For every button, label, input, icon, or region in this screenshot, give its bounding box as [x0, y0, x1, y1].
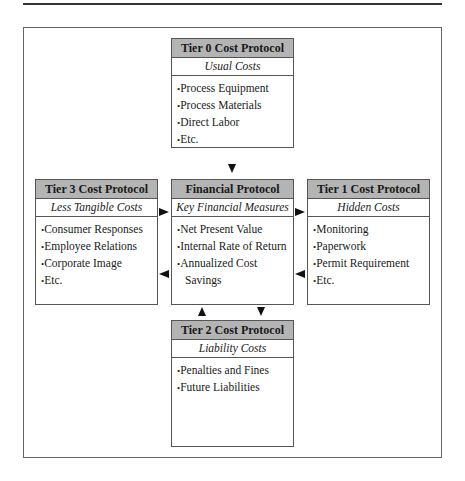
financial-list: Net Present Value Internal Rate of Retur… — [172, 217, 293, 288]
list-item: Annualized Cost Savings — [177, 255, 265, 288]
tier0-list: Process Equipment Process Materials Dire… — [172, 76, 293, 148]
list-item: Penalties and Fines — [177, 362, 293, 379]
tier2-box: Tier 2 Cost Protocol Liability Costs Pen… — [171, 320, 294, 447]
list-item: Etc. — [41, 272, 157, 289]
financial-box: Financial Protocol Key Financial Measure… — [171, 179, 294, 305]
arrow-left-icon — [295, 270, 305, 278]
list-item: Paperwork — [313, 238, 429, 255]
list-item: Net Present Value — [177, 221, 293, 238]
tier2-title: Tier 2 Cost Protocol — [172, 321, 293, 340]
list-item: Monitoring — [313, 221, 429, 238]
arrow-right-icon — [295, 208, 305, 216]
top-rule — [23, 3, 442, 5]
tier0-subtitle: Usual Costs — [172, 58, 293, 76]
arrow-right-icon — [159, 208, 169, 216]
tier1-subtitle: Hidden Costs — [308, 199, 429, 217]
list-item: Permit Requirement — [313, 255, 429, 272]
tier0-box: Tier 0 Cost Protocol Usual Costs Process… — [171, 38, 294, 148]
list-item: Process Materials — [177, 97, 293, 114]
list-item: Corporate Image — [41, 255, 157, 272]
tier1-list: Monitoring Paperwork Permit Requirement … — [308, 217, 429, 289]
list-item: Etc. — [313, 272, 429, 289]
tier1-title: Tier 1 Cost Protocol — [308, 180, 429, 199]
financial-title: Financial Protocol — [172, 180, 293, 199]
tier3-box: Tier 3 Cost Protocol Less Tangible Costs… — [35, 179, 158, 305]
tier1-box: Tier 1 Cost Protocol Hidden Costs Monito… — [307, 179, 430, 305]
list-item: Employee Relations — [41, 238, 157, 255]
arrow-up-icon — [198, 307, 206, 316]
list-item: Process Equipment — [177, 80, 293, 97]
list-item: Consumer Responses — [41, 221, 157, 238]
financial-subtitle: Key Financial Measures — [172, 199, 293, 217]
list-item: Etc. — [177, 131, 293, 148]
tier3-subtitle: Less Tangible Costs — [36, 199, 157, 217]
list-item: Future Liabilities — [177, 379, 293, 396]
list-item: Internal Rate of Return — [177, 238, 293, 255]
tier3-title: Tier 3 Cost Protocol — [36, 180, 157, 199]
arrow-down-icon — [257, 307, 265, 316]
arrow-down-icon — [228, 164, 236, 173]
list-item: Direct Labor — [177, 114, 293, 131]
tier0-title: Tier 0 Cost Protocol — [172, 39, 293, 58]
arrow-left-icon — [159, 270, 169, 278]
tier2-list: Penalties and Fines Future Liabilities — [172, 358, 293, 396]
tier2-subtitle: Liability Costs — [172, 340, 293, 358]
tier3-list: Consumer Responses Employee Relations Co… — [36, 217, 157, 289]
